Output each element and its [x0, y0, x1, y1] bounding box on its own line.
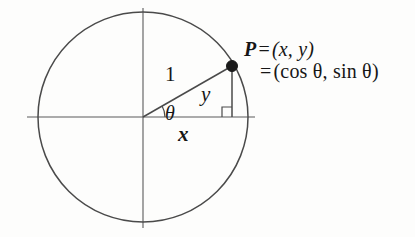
unit-circle-figure: 1 θ y x P=(x, y) =(cos θ, sin θ) — [0, 0, 415, 237]
point-p-trig-coordinates: (cos θ, sin θ) — [273, 60, 378, 82]
point-p-dot — [227, 61, 238, 72]
radius-hypotenuse-line — [143, 66, 232, 117]
theta-angle-label: θ — [165, 103, 175, 123]
vertical-leg-label: y — [201, 84, 210, 105]
point-p-line-2: =(cos θ, sin θ) — [258, 61, 379, 81]
point-p-line-1: P=(x, y) — [244, 39, 379, 59]
horizontal-leg-label: x — [178, 124, 189, 145]
point-p-name: P — [244, 38, 256, 60]
point-p-equals-2: = — [258, 60, 273, 82]
point-p-coordinates: (x, y) — [272, 38, 314, 60]
point-p-equals-1: = — [256, 38, 271, 60]
right-angle-marker — [222, 107, 232, 117]
point-p-annotation: P=(x, y) =(cos θ, sin θ) — [244, 39, 379, 81]
hypotenuse-length-label: 1 — [165, 64, 176, 85]
circle-diagram-canvas — [0, 0, 415, 237]
